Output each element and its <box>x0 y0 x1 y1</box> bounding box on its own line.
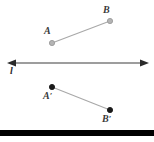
label-point-a-prime-text: A <box>43 90 50 101</box>
label-point-b: B <box>103 5 110 15</box>
point-b <box>107 18 112 23</box>
segment-a-prime-b-prime <box>52 87 110 110</box>
geometry-figure: A B A′ B′ l <box>0 0 154 142</box>
label-point-b-text: B <box>103 4 110 15</box>
point-a <box>49 40 54 45</box>
label-point-b-prime-text: B <box>102 113 109 124</box>
label-point-a-prime-group: A′ <box>43 91 52 101</box>
label-point-b-prime-group: B′ <box>102 114 111 124</box>
segment-ab <box>52 21 110 43</box>
label-point-a-prime-mark: ′ <box>50 91 53 101</box>
figure-canvas <box>0 0 154 142</box>
point-b-prime <box>107 107 112 112</box>
label-line-l: l <box>10 66 13 76</box>
bottom-black-bar <box>0 130 154 136</box>
point-a-prime <box>49 84 54 89</box>
label-point-b-prime-mark: ′ <box>109 114 112 124</box>
line-l-right-arrowhead <box>140 60 149 67</box>
label-point-a-text: A <box>44 25 51 36</box>
label-point-a: A <box>44 26 51 36</box>
